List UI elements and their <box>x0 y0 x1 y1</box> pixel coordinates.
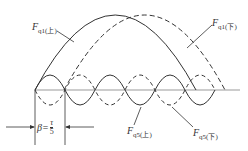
fq1-lower-leader <box>187 25 212 48</box>
arrow-head-left-icon <box>65 125 70 129</box>
fq1-lower-curve <box>64 15 225 90</box>
label-fq5-upper: Fq5(上) <box>127 125 152 139</box>
fq5-lower-leader <box>172 107 193 127</box>
beta-symbol: β= <box>37 122 49 133</box>
fq5-upper-leader <box>134 107 141 125</box>
beta-fraction: τ 5 <box>50 119 54 136</box>
arrow-head-right-icon <box>30 125 35 129</box>
beta-label: β= τ 5 <box>37 119 54 136</box>
fq1-upper-curve <box>35 15 196 90</box>
label-fq5-lower: Fq5(下) <box>193 127 218 141</box>
fq1-upper-leader <box>57 31 74 42</box>
label-fq1-upper: Fq1(上) <box>32 21 57 35</box>
label-fq1-lower: Fq1(下) <box>212 17 237 31</box>
